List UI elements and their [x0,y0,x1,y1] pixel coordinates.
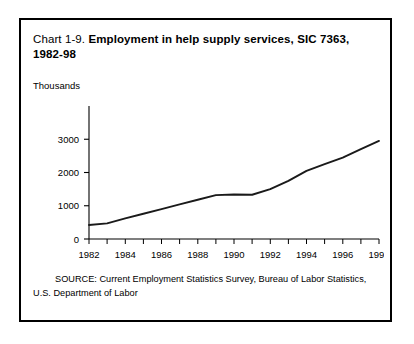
source-note-line-2: U.S. Department of Labor [33,287,381,301]
x-tick-label-1988: 1988 [187,249,208,260]
y-tick-label-0: 0 [74,234,79,245]
chart-title-prefix: Chart 1-9. [33,33,88,45]
y-tick-label-2000: 2000 [58,167,79,178]
x-tick-label-1998: 1998 [368,249,384,260]
data-series-line [89,141,379,225]
x-tick-label-1984: 1984 [115,249,136,260]
x-tick-label-1990: 1990 [223,249,244,260]
x-tick-labels: 1982 1984 1986 1988 1990 1992 1994 1996 … [78,249,384,260]
x-tick-label-1996: 1996 [332,249,353,260]
y-tick-label-1000: 1000 [58,200,79,211]
x-axis-group: 1982 1984 1986 1988 1990 1992 1994 1996 … [78,239,384,260]
x-tick-label-1982: 1982 [78,249,99,260]
y-axis-unit-label: Thousands [33,80,80,91]
source-note: SOURCE: Current Employment Statistics Su… [33,273,381,300]
line-chart-svg: 0 1000 2000 3000 [31,100,384,260]
chart-figure-frame: Chart 1-9. Employment in help supply ser… [19,18,392,322]
chart-title: Chart 1-9. Employment in help supply ser… [33,32,381,62]
source-note-line-1: SOURCE: Current Employment Statistics Su… [33,273,381,287]
x-tick-label-1994: 1994 [296,249,317,260]
plot-area: 0 1000 2000 3000 [31,100,384,260]
x-tick-label-1992: 1992 [260,249,281,260]
x-tick-marks [89,239,379,244]
x-tick-label-1986: 1986 [151,249,172,260]
y-tick-label-3000: 3000 [58,134,79,145]
y-axis-group: 0 1000 2000 3000 [58,106,89,245]
